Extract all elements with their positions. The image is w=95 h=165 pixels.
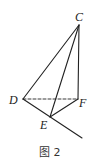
label-e: E — [39, 118, 48, 132]
label-c: C — [75, 10, 84, 24]
ray-de-extended — [23, 99, 82, 138]
geometry-figure: C D F E 图 2 — [0, 0, 95, 165]
label-f: F — [78, 96, 87, 110]
figure-caption: 图 2 — [39, 146, 61, 159]
segment-cf — [78, 25, 79, 99]
label-d: D — [8, 93, 18, 107]
segment-ef — [50, 99, 78, 117]
segment-ce — [50, 25, 79, 117]
segment-cd — [23, 25, 79, 99]
